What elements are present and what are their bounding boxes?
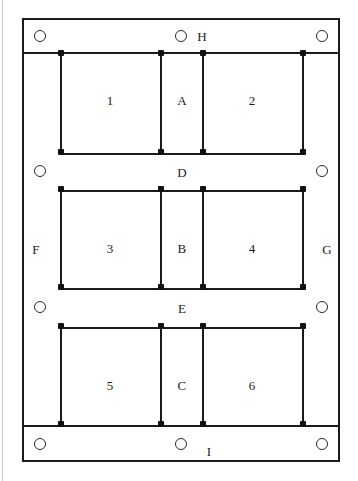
edge-label-G: G bbox=[322, 243, 332, 256]
joint-marker bbox=[300, 284, 306, 290]
joint-marker bbox=[158, 186, 164, 192]
panel-label-B: B bbox=[178, 242, 187, 255]
joint-marker bbox=[200, 186, 206, 192]
support-hole-icon bbox=[316, 301, 328, 313]
support-hole-icon bbox=[316, 438, 328, 450]
support-hole-icon bbox=[34, 30, 46, 42]
panel-label-2: 2 bbox=[249, 94, 256, 107]
joint-marker bbox=[58, 323, 64, 329]
joint-marker bbox=[200, 323, 206, 329]
joint-marker bbox=[158, 421, 164, 427]
joint-marker bbox=[58, 421, 64, 427]
column-member bbox=[202, 327, 204, 425]
support-hole-icon bbox=[34, 438, 46, 450]
beam-member bbox=[60, 288, 304, 290]
support-hole-icon bbox=[316, 30, 328, 42]
column-member bbox=[302, 327, 304, 425]
joint-marker bbox=[58, 149, 64, 155]
joint-marker bbox=[58, 284, 64, 290]
joint-marker bbox=[300, 323, 306, 329]
band-label-D: D bbox=[177, 166, 187, 179]
beam-member bbox=[60, 153, 304, 155]
joint-marker bbox=[200, 421, 206, 427]
joint-marker bbox=[200, 149, 206, 155]
joint-marker bbox=[158, 50, 164, 56]
column-member bbox=[60, 190, 62, 288]
column-member bbox=[160, 190, 162, 288]
edge-label-I: I bbox=[207, 445, 212, 458]
column-member bbox=[60, 327, 62, 425]
panel-label-5: 5 bbox=[107, 379, 114, 392]
column-member bbox=[160, 327, 162, 425]
joint-marker bbox=[58, 186, 64, 192]
joint-marker bbox=[158, 284, 164, 290]
support-hole-icon bbox=[34, 301, 46, 313]
band-label-E: E bbox=[178, 302, 186, 315]
page-edge-line bbox=[2, 0, 3, 481]
joint-marker bbox=[300, 149, 306, 155]
frame-rule bbox=[22, 425, 340, 427]
support-hole-icon bbox=[34, 165, 46, 177]
panel-label-1: 1 bbox=[107, 94, 114, 107]
panel-label-3: 3 bbox=[107, 242, 114, 255]
joint-marker bbox=[158, 323, 164, 329]
joint-marker bbox=[300, 421, 306, 427]
column-member bbox=[202, 190, 204, 288]
joint-marker bbox=[300, 186, 306, 192]
joint-marker bbox=[200, 284, 206, 290]
frame-rule bbox=[22, 52, 340, 54]
column-member bbox=[60, 52, 62, 153]
joint-marker bbox=[300, 50, 306, 56]
column-member bbox=[302, 190, 304, 288]
support-hole-icon bbox=[316, 165, 328, 177]
beam-member bbox=[60, 327, 304, 329]
support-hole-icon bbox=[175, 30, 187, 42]
column-member bbox=[160, 52, 162, 153]
column-member bbox=[302, 52, 304, 153]
edge-label-F: F bbox=[32, 243, 39, 256]
support-hole-icon bbox=[175, 438, 187, 450]
joint-marker bbox=[58, 50, 64, 56]
joint-marker bbox=[158, 149, 164, 155]
edge-label-H: H bbox=[197, 30, 207, 43]
structural-frame-diagram: 1A23B45C6DEHFGI bbox=[0, 0, 358, 481]
panel-label-C: C bbox=[178, 379, 187, 392]
column-member bbox=[202, 52, 204, 153]
beam-member bbox=[60, 190, 304, 192]
panel-label-4: 4 bbox=[249, 242, 256, 255]
panel-label-A: A bbox=[177, 94, 187, 107]
joint-marker bbox=[200, 50, 206, 56]
panel-label-6: 6 bbox=[249, 379, 256, 392]
